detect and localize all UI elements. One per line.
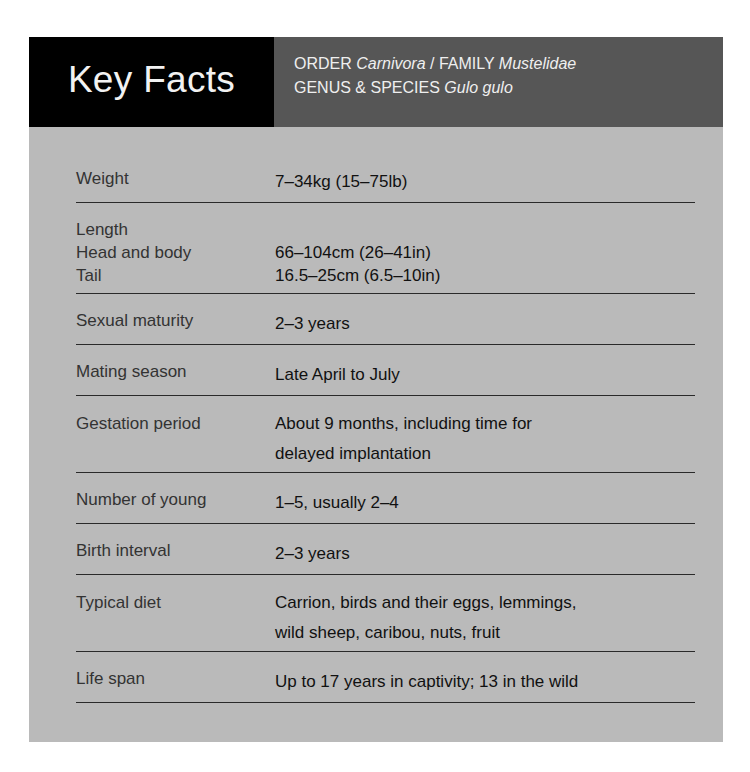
taxonomy-order-family: ORDER Carnivora / FAMILY Mustelidae: [294, 52, 723, 76]
fact-value: 7–34kg (15–75lb): [275, 167, 695, 196]
fact-row-birth-interval: Birth interval 2–3 years: [76, 532, 695, 575]
genus-species-label: GENUS & SPECIES: [294, 79, 440, 96]
facts-table: Weight 7–34kg (15–75lb) Length Head and …: [76, 160, 695, 711]
taxonomy-block: ORDER Carnivora / FAMILY Mustelidae GENU…: [274, 37, 723, 127]
taxonomy-separator: /: [430, 55, 434, 72]
fact-row-weight: Weight 7–34kg (15–75lb): [76, 160, 695, 203]
fact-label: Typical diet: [76, 588, 275, 618]
fact-row-number-of-young: Number of young 1–5, usually 2–4: [76, 481, 695, 524]
family-value: Mustelidae: [499, 55, 576, 72]
fact-label: Weight: [76, 167, 275, 190]
key-facts-card: Key Facts ORDER Carnivora / FAMILY Muste…: [29, 37, 723, 742]
fact-row-typical-diet: Typical diet Carrion, birds and their eg…: [76, 583, 695, 652]
fact-label: Sexual maturity: [76, 309, 275, 332]
genus-species-value: Gulo gulo: [444, 79, 513, 96]
fact-row-mating-season: Mating season Late April to July: [76, 353, 695, 396]
family-label: FAMILY: [439, 55, 494, 72]
fact-sublabel: Head and body: [76, 241, 275, 264]
title-block: Key Facts: [29, 37, 274, 127]
fact-label: Length: [76, 218, 275, 241]
fact-value: 2–3 years: [275, 539, 695, 568]
fact-label: Mating season: [76, 360, 275, 383]
fact-row-sexual-maturity: Sexual maturity 2–3 years: [76, 302, 695, 345]
fact-value: 16.5–25cm (6.5–10in): [275, 264, 695, 287]
key-facts-header: Key Facts ORDER Carnivora / FAMILY Muste…: [29, 37, 723, 127]
fact-label: Gestation period: [76, 409, 275, 439]
order-value: Carnivora: [356, 55, 425, 72]
fact-row-life-span: Life span Up to 17 years in captivity; 1…: [76, 660, 695, 703]
fact-value: Late April to July: [275, 360, 695, 389]
fact-value: Up to 17 years in captivity; 13 in the w…: [275, 667, 695, 696]
fact-label: Birth interval: [76, 539, 275, 562]
fact-value: delayed implantation: [275, 439, 695, 469]
fact-value: 66–104cm (26–41in): [275, 241, 695, 264]
fact-label: Life span: [76, 667, 275, 690]
fact-row-length: Length Head and body Tail 66–104cm (26–4…: [76, 211, 695, 294]
fact-label: Number of young: [76, 488, 275, 511]
fact-value: wild sheep, caribou, nuts, fruit: [275, 618, 695, 648]
fact-value: 2–3 years: [275, 309, 695, 338]
fact-value: About 9 months, including time for: [275, 409, 695, 439]
order-label: ORDER: [294, 55, 352, 72]
fact-value: 1–5, usually 2–4: [275, 488, 695, 517]
page-title: Key Facts: [68, 59, 235, 101]
fact-sublabel: Tail: [76, 264, 275, 287]
fact-value: Carrion, birds and their eggs, lemmings,: [275, 588, 695, 618]
fact-row-gestation-period: Gestation period About 9 months, includi…: [76, 404, 695, 473]
taxonomy-genus-species: GENUS & SPECIES Gulo gulo: [294, 76, 723, 100]
